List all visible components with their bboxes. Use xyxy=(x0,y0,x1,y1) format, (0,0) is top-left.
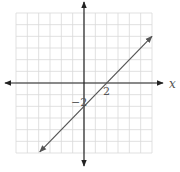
x-intercept-label: 2 xyxy=(103,85,110,98)
y-intercept-label: −2 xyxy=(71,96,87,109)
coordinate-graph: x 2 −2 xyxy=(0,0,180,172)
line-y-equals-x-minus-2 xyxy=(40,36,152,152)
plotted-line xyxy=(40,36,152,152)
x-axis-label: x xyxy=(169,77,176,91)
